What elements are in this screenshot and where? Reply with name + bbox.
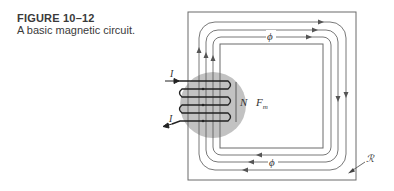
current-label-in: I [169, 68, 174, 79]
mmf-label: Fm [255, 96, 268, 111]
flux-label-top: ϕ [267, 30, 273, 42]
magnetic-circuit-diagram: ϕ ϕ I I N Fm ℛ [0, 0, 394, 191]
current-label-out: I [168, 113, 173, 124]
reluctance-label: ℛ [366, 153, 375, 164]
flux-label-bottom: ϕ [269, 156, 275, 168]
turns-label: N [239, 96, 248, 108]
